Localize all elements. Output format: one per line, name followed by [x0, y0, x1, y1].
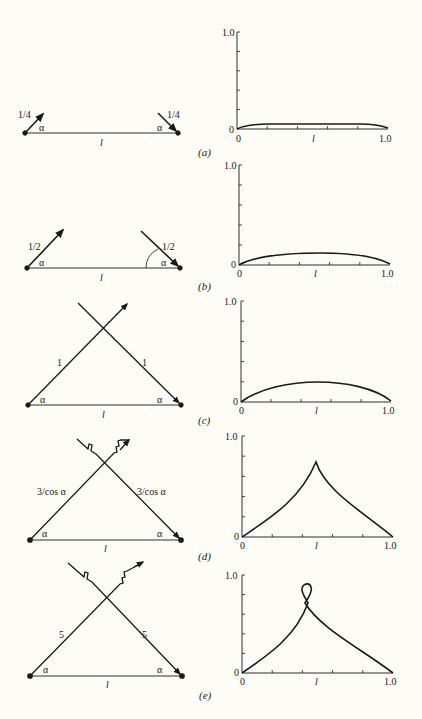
- y-bottom-label: 0: [231, 259, 236, 270]
- panel-b: 1/2 1/2 α α l (b) 1.0 0 0 l 1.0: [25, 160, 394, 293]
- panel-d: 3/cos α 3/cos α α α l (d) 1.0 0 0 l 1.0: [28, 431, 397, 563]
- right-node-dot: [179, 538, 183, 542]
- x-left-label: 0: [240, 676, 245, 687]
- left-angle-label: α: [40, 394, 46, 405]
- panel-a: 1/4 1/4 α α l (a) 1.0 0 0 l 1.0: [18, 27, 392, 159]
- left-angle-label: α: [39, 122, 45, 133]
- plot-a: [237, 32, 388, 129]
- left-node-dot: [23, 131, 27, 135]
- x-right-label: 1.0: [381, 268, 394, 279]
- x-right-label: 1.0: [384, 676, 397, 687]
- right-vector-label: 1/2: [162, 241, 175, 252]
- panel-label: (e): [199, 689, 212, 702]
- panel-label: (d): [198, 550, 211, 563]
- y-bottom-label: 0: [233, 396, 238, 407]
- plot-c: [241, 301, 391, 402]
- diagram-e: [28, 562, 184, 678]
- panel-label: (a): [198, 146, 211, 159]
- left-vector-label: 5: [59, 629, 64, 640]
- x-right-label: 1.0: [384, 540, 397, 551]
- angle-arc: [146, 249, 158, 268]
- x-right-label: 1.0: [382, 405, 395, 416]
- right-angle-label: α: [157, 122, 163, 133]
- x-left-label: 0: [236, 133, 241, 144]
- y-bottom-label: 0: [234, 667, 239, 678]
- base-length-label: l: [104, 543, 107, 554]
- diagram-b: [25, 230, 182, 270]
- plot-e: [242, 575, 393, 673]
- panel-label: (b): [198, 280, 211, 293]
- right-node-dot: [179, 403, 183, 407]
- right-node-dot: [178, 266, 182, 270]
- base-length-label: l: [102, 409, 105, 420]
- left-angle-label: α: [39, 257, 45, 268]
- curve: [241, 382, 391, 402]
- right-vector-label: 1/4: [167, 109, 180, 120]
- x-left-label: 0: [237, 268, 242, 279]
- x-mid-label: l: [315, 405, 318, 416]
- x-mid-label: l: [314, 268, 317, 279]
- y-top-label: 1.0: [225, 570, 238, 581]
- panel-e: 5 5 α α l (e) 1.0 0 0 l 1.0: [28, 562, 397, 702]
- left-vector-label: 1/4: [18, 109, 31, 120]
- right-vector-label: 3/cos α: [137, 486, 167, 497]
- y-top-label: 1.0: [222, 27, 235, 38]
- plot-d: [242, 436, 393, 537]
- y-bottom-label: 0: [234, 531, 239, 542]
- left-node-dot: [26, 403, 30, 407]
- x-left-label: 0: [240, 540, 245, 551]
- left-node-dot: [28, 674, 32, 678]
- right-vector-label: 5: [142, 629, 147, 640]
- right-vector-label: 1: [142, 357, 147, 368]
- base-length-label: l: [100, 272, 103, 283]
- left-vector-arrowhead: [134, 562, 143, 567]
- right-node-dot: [180, 674, 184, 678]
- y-bottom-label: 0: [229, 124, 234, 135]
- left-angle-label: α: [42, 528, 48, 539]
- curve: [242, 462, 393, 537]
- left-vector-label: 3/cos α: [37, 486, 67, 497]
- curve-with-loop: [242, 584, 393, 673]
- y-top-label: 1.0: [224, 160, 237, 171]
- panel-label: (c): [198, 414, 211, 427]
- left-vector-arrow: [28, 304, 127, 405]
- right-vector-arrow: [78, 303, 179, 403]
- right-angle-label: α: [161, 257, 167, 268]
- left-vector-arrowhead: [120, 440, 129, 450]
- y-top-label: 1.0: [225, 431, 238, 442]
- left-vector-label: 1/2: [28, 241, 41, 252]
- base-length-label: l: [106, 679, 109, 690]
- left-node-dot: [28, 538, 32, 542]
- right-vector-with-break: [68, 563, 180, 674]
- left-angle-label: α: [43, 664, 49, 675]
- x-mid-label: l: [315, 676, 318, 687]
- figure-canvas: 1/4 1/4 α α l (a) 1.0 0 0 l 1.0: [0, 0, 422, 719]
- x-left-label: 0: [239, 405, 244, 416]
- right-angle-label: α: [157, 664, 163, 675]
- right-node-dot: [176, 131, 180, 135]
- x-mid-label: l: [315, 540, 318, 551]
- diagram-c: [26, 303, 183, 407]
- plot-b: [239, 165, 390, 265]
- left-vector-label: 1: [57, 357, 62, 368]
- base-length-label: l: [100, 137, 103, 148]
- curve: [237, 124, 388, 129]
- left-vector-with-break: [30, 563, 142, 676]
- x-mid-label: l: [312, 133, 315, 144]
- x-right-label: 1.0: [379, 133, 392, 144]
- curve: [239, 253, 390, 265]
- right-angle-label: α: [157, 528, 163, 539]
- panel-c: 1 1 α α l (c) 1.0 0 0 l 1.0: [26, 296, 395, 427]
- left-node-dot: [25, 266, 29, 270]
- right-angle-label: α: [157, 394, 163, 405]
- y-top-label: 1.0: [224, 296, 237, 307]
